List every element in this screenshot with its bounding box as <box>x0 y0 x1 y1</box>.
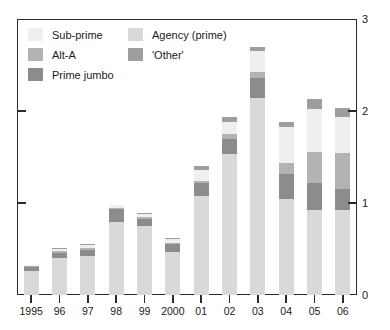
bar-segment <box>335 189 350 210</box>
y-axis-tick <box>17 110 26 112</box>
bar-segment <box>335 117 350 154</box>
bar-segment <box>80 245 95 248</box>
legend-label: Sub-prime <box>52 29 103 41</box>
bar-96 <box>52 248 67 295</box>
x-axis-tick <box>172 295 174 303</box>
bar-segment <box>24 271 39 295</box>
bar-segment <box>250 51 265 72</box>
y-axis-label: 0 <box>362 290 368 301</box>
bar-segment <box>109 222 124 295</box>
bar-1995 <box>24 266 39 295</box>
y-axis-label: 2 <box>362 106 368 117</box>
bar-segment <box>222 122 237 134</box>
bar-segment <box>194 166 209 170</box>
bar-segment <box>109 205 124 208</box>
bar-segment <box>250 72 265 78</box>
bar-segment <box>279 174 294 200</box>
y-axis-tick <box>17 202 26 204</box>
legend-swatch-icon <box>28 68 43 81</box>
bar-segment <box>52 251 67 253</box>
legend-swatch-icon <box>28 28 43 41</box>
stacked-bar-chart: 01231995969798992000010203040506 Sub-pri… <box>0 0 390 330</box>
bar-segment <box>222 139 237 155</box>
legend-swatch-icon <box>128 28 143 41</box>
bar-segment <box>307 183 322 211</box>
bar-01 <box>194 166 209 295</box>
y-axis-tick <box>348 202 357 204</box>
bar-segment <box>52 258 67 295</box>
bar-segment <box>222 154 237 295</box>
bar-segment <box>250 98 265 295</box>
bar-segment <box>194 170 209 181</box>
bar-segment <box>137 214 152 217</box>
legend-label: Alt-A <box>52 49 76 61</box>
legend-column-1: Sub-primeAlt-APrime jumbo <box>28 26 114 86</box>
bar-segment <box>279 163 294 174</box>
legend-item: Alt-A <box>28 46 114 63</box>
legend-label: Agency (prime) <box>152 29 227 41</box>
bar-segment <box>137 219 152 226</box>
bar-98 <box>109 205 124 295</box>
x-axis-tick <box>115 295 117 303</box>
bar-segment <box>222 117 237 123</box>
bar-97 <box>80 244 95 295</box>
bar-segment <box>24 265 39 266</box>
legend-item: Prime jumbo <box>28 66 114 83</box>
bar-segment <box>52 249 67 251</box>
bar-segment <box>279 122 294 127</box>
bar-segment <box>194 181 209 183</box>
bar-segment <box>165 244 180 251</box>
bar-segment <box>222 134 237 139</box>
bar-segment <box>80 256 95 295</box>
bar-segment <box>307 109 322 152</box>
y-axis-label: 1 <box>362 198 368 209</box>
legend-swatch-icon <box>28 48 43 61</box>
bar-segment <box>52 248 67 249</box>
legend-item: 'Other' <box>128 46 227 63</box>
x-axis-tick <box>285 295 287 303</box>
x-axis-label: 06 <box>323 306 363 317</box>
legend-label: Prime jumbo <box>52 69 114 81</box>
x-axis-tick <box>144 295 146 303</box>
bar-segment <box>279 127 294 163</box>
bar-segment <box>109 209 124 222</box>
x-axis-tick <box>30 295 32 303</box>
bar-segment <box>137 217 152 219</box>
x-axis-tick <box>200 295 202 303</box>
bar-segment <box>335 153 350 189</box>
bar-segment <box>194 183 209 196</box>
bar-99 <box>137 213 152 295</box>
bar-04 <box>279 122 294 295</box>
bar-02 <box>222 117 237 295</box>
legend-item: Agency (prime) <box>128 26 227 43</box>
y-axis-label: 3 <box>362 14 368 25</box>
x-axis-tick <box>229 295 231 303</box>
bar-segment <box>194 196 209 295</box>
bar-segment <box>250 78 265 98</box>
x-axis-tick <box>314 295 316 303</box>
bar-segment <box>279 199 294 295</box>
bar-segment <box>52 253 67 259</box>
bar-segment <box>80 250 95 256</box>
bar-03 <box>250 47 265 295</box>
bar-segment <box>80 248 95 250</box>
bar-segment <box>250 47 265 52</box>
bar-segment <box>109 208 124 210</box>
x-axis-tick <box>87 295 89 303</box>
x-axis-tick <box>257 295 259 303</box>
x-axis-tick <box>59 295 61 303</box>
bar-segment <box>307 99 322 109</box>
legend-swatch-icon <box>128 48 143 61</box>
bar-segment <box>335 210 350 295</box>
bar-segment <box>307 152 322 182</box>
x-axis-tick <box>342 295 344 303</box>
bar-segment <box>137 226 152 295</box>
legend-item: Sub-prime <box>28 26 114 43</box>
bar-segment <box>165 238 180 239</box>
bar-segment <box>165 239 180 243</box>
legend-label: 'Other' <box>152 49 184 61</box>
bar-segment <box>137 213 152 214</box>
y-axis-tick <box>348 110 357 112</box>
legend-column-2: Agency (prime)'Other' <box>128 26 227 66</box>
bar-05 <box>307 99 322 295</box>
